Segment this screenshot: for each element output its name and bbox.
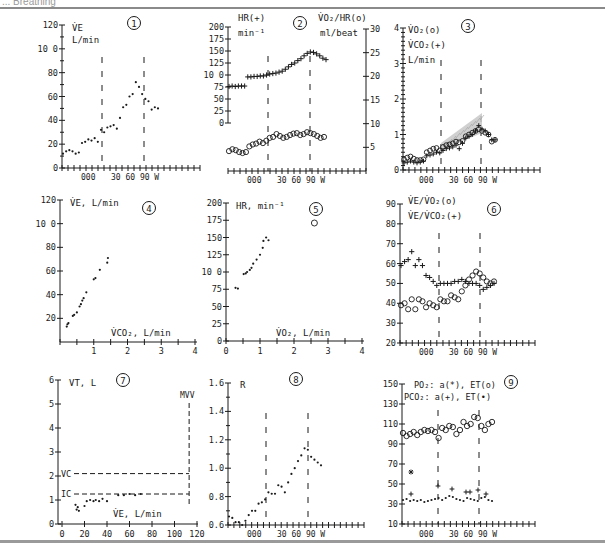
y-tick-label: 25 (214, 106, 224, 116)
panel-4-ve-vs-vco2: 2040608010 01201234V̇E, L/minV̇CO₂, L/mi… (36, 195, 198, 356)
data-point-dot (151, 109, 153, 111)
panel-number: 6 (491, 205, 496, 215)
x-tick-label: 3 (325, 346, 330, 356)
data-point-dot (98, 500, 100, 502)
data-point-dot (473, 499, 475, 501)
footer-divider (0, 540, 605, 543)
data-point-dot (122, 106, 124, 108)
data-point-plus (242, 83, 247, 88)
y-tick-label: 150 (383, 379, 398, 389)
x-tick-label: 40 (102, 529, 112, 539)
data-point-circle (434, 146, 439, 151)
data-point-dot (420, 499, 422, 501)
data-point-dot (254, 510, 256, 512)
data-point-dot (290, 473, 292, 475)
data-point-dot (441, 499, 443, 501)
y-tick-label: 70 (386, 239, 396, 249)
data-point-dot (250, 267, 252, 269)
data-point-circle (311, 220, 317, 226)
data-point-plus (437, 151, 442, 156)
data-point-dot (434, 498, 436, 500)
data-point-dot (94, 137, 96, 139)
data-point-dot (251, 510, 253, 512)
data-point-dot (109, 125, 111, 127)
vc-label: VC (61, 469, 71, 479)
right-y-axis-unit: ml/beat (320, 28, 358, 38)
right-y-tick-label: 5 (370, 142, 375, 152)
series-label-vco2: V̇CO₂(+) (408, 39, 446, 50)
right-y-tick-label: 20 (370, 71, 380, 81)
data-point-dot (123, 494, 125, 496)
data-point-plus (301, 53, 306, 58)
data-point-circle (457, 427, 462, 432)
panel-8-respiratory-exchange-ratio: 0.60.81.01.21.41.600030 60 90 WR8 (209, 373, 364, 540)
data-point-dot (78, 510, 80, 512)
data-point-dot (97, 141, 99, 143)
data-point-dot (470, 498, 472, 500)
y-tick-label: 175 (209, 34, 224, 44)
y-tick-label: 10 0 (204, 70, 224, 80)
data-point-dot (116, 128, 118, 130)
data-point-dot (147, 100, 149, 102)
data-point-circle (482, 427, 487, 432)
y-tick-label: 1 (49, 495, 54, 505)
data-point-dot (73, 314, 75, 316)
data-point-dot (310, 456, 312, 458)
data-point-dot (438, 497, 440, 499)
data-point-dot (448, 495, 450, 497)
y-tick-label: 75 (214, 82, 224, 92)
y-tick-label: 90 (388, 439, 398, 449)
x-tick-label: 2 (291, 346, 296, 356)
y-tick-label: 1.2 (209, 435, 224, 445)
y-tick-label: 200 (209, 22, 224, 32)
y-axis-label: R (240, 380, 246, 390)
data-point-dot (80, 303, 82, 305)
data-point-plus (431, 279, 436, 284)
data-point-dot (106, 126, 108, 128)
y-tick-label: 125 (207, 250, 222, 260)
data-point-dot (491, 500, 493, 502)
y-tick-label: 90 (386, 199, 396, 209)
x-tick-label: 20 (79, 529, 89, 539)
panel-number: 8 (293, 375, 298, 385)
data-point-dot (141, 93, 143, 95)
data-point-dot (313, 459, 315, 461)
workload-label-watts: 30 60 90 W (277, 530, 325, 539)
x-tick-label: 2 (125, 346, 130, 356)
series-label-ve-vco2: V̇E/V̇CO₂(+) (408, 210, 462, 221)
workload-label-unloaded: 000 (419, 176, 434, 185)
data-point-dot (452, 496, 454, 498)
data-point-dot (244, 520, 246, 522)
data-point-dot (103, 131, 105, 133)
data-point-dot (90, 139, 92, 141)
right-y-axis-label: V̇O₂/HR(o) (318, 12, 367, 23)
series-label-po2: PO₂: a(*), ET(o) (414, 380, 496, 390)
data-point-dot (125, 104, 127, 106)
panel-5-hr-vs-vo2: 025507510 012515017520001234HR, min⁻¹V̇O… (202, 198, 365, 356)
data-point-dot (477, 500, 479, 502)
data-point-dot (66, 326, 68, 328)
data-point-circle (475, 415, 480, 420)
data-point-plus (436, 484, 441, 489)
data-point-circle (450, 424, 455, 429)
y-tick-label: 50 (386, 278, 396, 288)
workload-label-unloaded: 000 (247, 530, 262, 539)
y-tick-label: 150 (207, 233, 222, 243)
right-y-tick-label: 25 (370, 48, 380, 58)
y-tick-label: 125 (209, 58, 224, 68)
data-point-dot (231, 517, 233, 519)
y-axis-label: HR, min⁻¹ (236, 201, 285, 211)
panel-number: 2 (297, 19, 302, 29)
data-point-circle (425, 428, 430, 433)
data-point-dot (237, 287, 239, 289)
data-point-dot (140, 493, 142, 495)
workload-label-unloaded: 000 (419, 348, 434, 357)
data-point-dot (297, 460, 299, 462)
y-tick-label: 50 (214, 94, 224, 104)
y-tick-label: 30 (388, 499, 398, 509)
data-point-dot (459, 499, 461, 501)
data-point-dot (84, 141, 86, 143)
panel-number: 7 (120, 376, 125, 386)
data-point-circle (406, 307, 411, 312)
data-point-circle (267, 135, 272, 140)
